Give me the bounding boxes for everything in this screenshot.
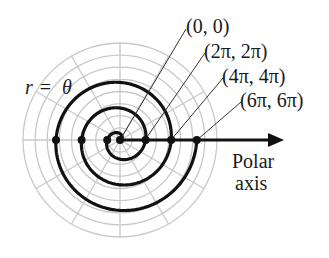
point-marker: [103, 136, 111, 144]
polar-axis-label-line1: Polar: [232, 150, 275, 172]
point-marker: [167, 136, 175, 144]
equation-r: r: [25, 76, 33, 98]
polar-spiral-diagram: (0, 0) (2π, 2π) (4π, 4π) (6π, 6π) r = θ …: [0, 0, 329, 258]
equation-theta: θ: [62, 76, 72, 98]
point-label-4pi: (4π, 4π): [222, 65, 286, 88]
point-marker: [116, 136, 124, 144]
point-marker: [142, 136, 150, 144]
point-marker: [78, 136, 86, 144]
equation-eq: =: [40, 76, 51, 98]
grid-spoke: [72, 56, 121, 140]
point-marker: [52, 136, 60, 144]
point-label-2pi: (2π, 2π): [204, 40, 268, 63]
grid-spoke: [36, 92, 120, 141]
polar-axis-arrow-icon: [268, 133, 284, 147]
equation-label: r = θ: [25, 76, 72, 98]
point-marker: [193, 136, 201, 144]
leader-line-6pi: [197, 102, 241, 140]
spiral-curve: [56, 82, 197, 210]
point-label-0: (0, 0): [186, 15, 229, 38]
polar-axis-label-line2: axis: [235, 172, 267, 194]
leader-line-4pi: [171, 78, 223, 140]
point-label-6pi: (6π, 6π): [240, 89, 304, 112]
